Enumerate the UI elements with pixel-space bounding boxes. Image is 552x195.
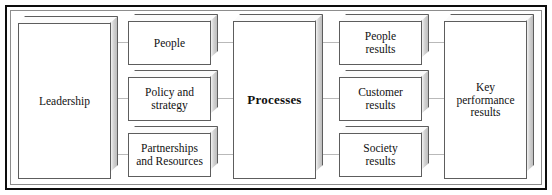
box-label-leadership: Leadership <box>18 23 111 179</box>
box-line: strategy <box>145 99 194 112</box>
box-line: performance <box>456 94 514 107</box>
box-side-face <box>110 16 118 172</box>
box-side-face <box>526 14 534 172</box>
box-customer-results[interactable]: Customer results <box>339 70 429 121</box>
box-label-key-performance-results: Key performance results <box>444 21 527 179</box>
box-line: People <box>365 30 396 43</box>
box-line: Partnerships <box>136 142 203 155</box>
box-line: results <box>365 43 396 56</box>
box-line: Customer <box>358 86 403 99</box>
box-leadership[interactable]: Leadership <box>18 16 118 179</box>
box-people[interactable]: People <box>128 14 218 65</box>
box-line: Key <box>456 81 514 94</box>
box-line: Leadership <box>39 95 90 108</box>
box-label-people-results: People results <box>339 21 422 65</box>
box-processes[interactable]: Processes <box>233 14 323 179</box>
box-label-people: People <box>128 21 211 65</box>
box-side-face <box>421 70 429 114</box>
box-side-face <box>210 126 218 170</box>
efqm-excellence-model-diagram: Leadership People Policy and strategy Pa… <box>0 0 552 195</box>
box-label-processes: Processes <box>233 21 316 179</box>
box-side-face <box>210 14 218 58</box>
box-side-face <box>315 14 323 172</box>
box-line: People <box>154 37 185 50</box>
box-label-partnerships-and-resources: Partnerships and Resources <box>128 133 211 177</box>
box-side-face <box>421 126 429 170</box>
box-line: results <box>363 155 398 168</box>
box-label-policy-and-strategy: Policy and strategy <box>128 77 211 121</box>
box-policy-and-strategy[interactable]: Policy and strategy <box>128 70 218 121</box>
box-line: and Resources <box>136 155 203 168</box>
box-label-society-results: Society results <box>339 133 422 177</box>
box-society-results[interactable]: Society results <box>339 126 429 177</box>
box-partnerships-and-resources[interactable]: Partnerships and Resources <box>128 126 218 177</box>
box-people-results[interactable]: People results <box>339 14 429 65</box>
box-key-performance-results[interactable]: Key performance results <box>444 14 534 179</box>
box-line: Policy and <box>145 86 194 99</box>
box-side-face <box>421 14 429 58</box>
box-label-customer-results: Customer results <box>339 77 422 121</box>
box-line: results <box>358 99 403 112</box>
box-line: results <box>456 106 514 119</box>
box-line: Processes <box>247 93 301 108</box>
box-line: Society <box>363 142 398 155</box>
box-side-face <box>210 70 218 114</box>
